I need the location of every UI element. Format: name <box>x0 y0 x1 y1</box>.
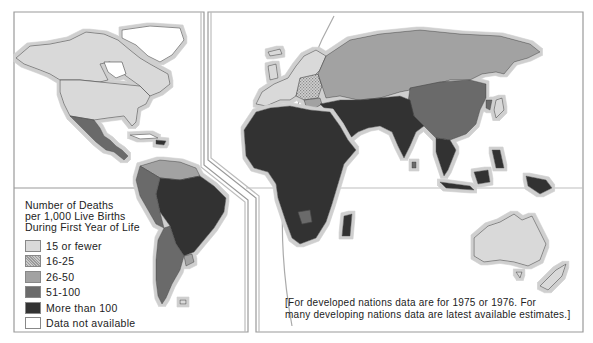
legend-label: Data not available <box>46 317 135 329</box>
australia <box>474 214 546 266</box>
africa <box>244 106 356 244</box>
madagascar <box>342 214 352 236</box>
legend-title: Number of Deaths per 1,000 Live Births D… <box>25 200 205 233</box>
swatch-data-not-available <box>25 317 41 329</box>
legend-item-data-not-available: Data not available <box>25 316 205 332</box>
legend-label: 15 or fewer <box>46 240 102 252</box>
footnote: [For developed nations data are for 1975… <box>285 297 570 320</box>
mexico <box>70 116 128 160</box>
indonesia <box>440 182 474 190</box>
legend-label: 16-25 <box>46 255 74 267</box>
americas <box>16 26 184 160</box>
southeast-asia <box>436 138 456 176</box>
legend-item-26-50: 26-50 <box>25 269 205 285</box>
china-mongolia <box>408 80 486 140</box>
swatch-more-than-100 <box>25 302 41 314</box>
swatch-51-100 <box>25 286 41 298</box>
swatch-26-50 <box>25 271 41 283</box>
new-guinea <box>526 176 552 194</box>
swatch-16-25 <box>25 255 41 267</box>
legend-item-more-than-100: More than 100 <box>25 300 205 316</box>
haiti <box>156 140 166 145</box>
swatch-15-or-fewer <box>25 240 41 252</box>
legend-title-line-3: During First Year of Life <box>25 222 205 233</box>
footnote-line-1: [For developed nations data are for 1975… <box>285 297 570 309</box>
legend-label: More than 100 <box>46 302 118 314</box>
new-zealand <box>540 264 566 290</box>
footnote-line-2: many developing nations data are latest … <box>285 309 570 321</box>
legend-item-15-or-fewer: 15 or fewer <box>25 238 205 254</box>
oceania <box>474 214 566 290</box>
map-legend: Number of Deaths per 1,000 Live Births D… <box>25 200 205 331</box>
legend-label: 51-100 <box>46 286 81 298</box>
africa-continent <box>244 106 356 244</box>
legend-item-16-25: 16-25 <box>25 254 205 270</box>
legend-label: 26-50 <box>46 271 74 283</box>
legend-item-51-100: 51-100 <box>25 285 205 301</box>
japan <box>494 98 504 118</box>
eastern-europe <box>296 74 322 100</box>
